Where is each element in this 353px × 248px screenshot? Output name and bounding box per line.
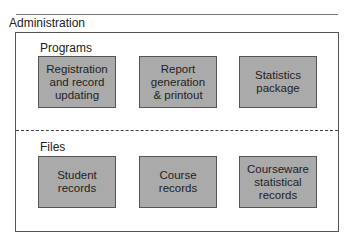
section-divider <box>16 130 338 131</box>
file-box-courseware: Courseware statistical records <box>239 156 317 208</box>
program-box-report: Report generation & printout <box>139 56 217 108</box>
administration-container: Programs Registration and record updatin… <box>15 32 339 232</box>
diagram-title: Administration <box>9 16 85 30</box>
program-box-registration: Registration and record updating <box>38 56 116 108</box>
file-box-course: Course records <box>139 156 217 208</box>
program-box-statistics: Statistics package <box>239 56 317 108</box>
top-rule <box>16 14 338 15</box>
file-box-student: Student records <box>38 156 116 208</box>
programs-label: Programs <box>40 41 92 55</box>
files-label: Files <box>40 140 65 154</box>
